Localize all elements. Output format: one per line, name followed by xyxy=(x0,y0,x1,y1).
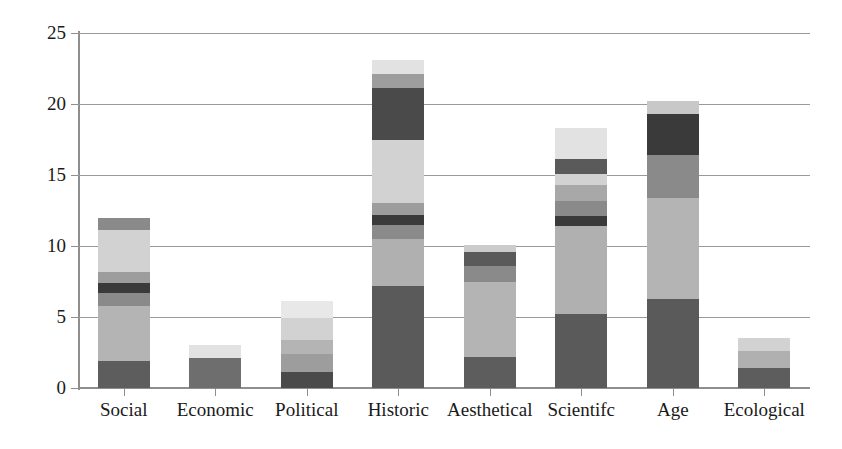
bar-segment xyxy=(647,101,699,114)
bar-segment xyxy=(372,140,424,204)
chart-root: 0510152025 SocialEconomicPoliticalHistor… xyxy=(0,0,842,449)
bar-segment xyxy=(555,128,607,159)
x-axis-tick xyxy=(764,389,765,396)
y-axis-tick xyxy=(71,175,78,176)
bar-segment xyxy=(98,283,150,293)
bar-segment xyxy=(647,155,699,198)
bar-segment xyxy=(281,372,333,388)
bar-segment xyxy=(464,266,516,282)
bar-segment xyxy=(464,252,516,266)
x-axis-label-historic: Historic xyxy=(353,400,445,421)
bar-segment xyxy=(738,338,790,351)
bar-segment xyxy=(372,203,424,214)
bar-segment xyxy=(555,185,607,201)
x-axis-label-social: Social xyxy=(78,400,170,421)
bar-segment xyxy=(555,226,607,314)
bar-segment xyxy=(98,230,150,271)
bar-segment xyxy=(464,245,516,252)
bar-segment xyxy=(372,225,424,239)
gridline xyxy=(78,175,810,176)
y-axis-tick xyxy=(71,104,78,105)
bar-segment xyxy=(555,201,607,217)
y-axis-tick xyxy=(71,33,78,34)
bar-segment xyxy=(555,314,607,388)
bar-segment xyxy=(372,60,424,74)
bar-age xyxy=(647,101,699,388)
bar-scientifc xyxy=(555,128,607,388)
bar-segment xyxy=(738,351,790,368)
x-axis-tick xyxy=(307,389,308,396)
bar-segment xyxy=(98,218,150,231)
y-axis-tick xyxy=(71,317,78,318)
bar-political xyxy=(281,301,333,388)
bar-segment xyxy=(281,354,333,372)
bar-social xyxy=(98,218,150,388)
y-axis-label: 5 xyxy=(10,307,66,326)
x-axis-tick xyxy=(398,389,399,396)
bar-aesthetical xyxy=(464,245,516,388)
bar-segment xyxy=(189,358,241,388)
y-axis-label: 0 xyxy=(10,378,66,397)
bar-segment xyxy=(281,301,333,318)
bar-segment xyxy=(372,239,424,286)
y-axis-label: 10 xyxy=(10,236,66,255)
gridline xyxy=(78,246,810,247)
bar-segment xyxy=(647,114,699,155)
x-axis-tick xyxy=(215,389,216,396)
x-axis-tick xyxy=(490,389,491,396)
bar-segment xyxy=(372,286,424,388)
bar-segment xyxy=(281,318,333,339)
x-axis-label-aesthetical: Aesthetical xyxy=(444,400,536,421)
bar-segment xyxy=(372,88,424,139)
plot-area xyxy=(78,33,810,388)
gridline xyxy=(78,33,810,34)
bar-segment xyxy=(647,299,699,388)
x-axis-label-economic: Economic xyxy=(170,400,262,421)
bar-segment xyxy=(555,216,607,226)
bar-segment xyxy=(98,293,150,306)
y-axis-label: 15 xyxy=(10,165,66,184)
gridline xyxy=(78,104,810,105)
bar-segment xyxy=(464,357,516,388)
bar-segment xyxy=(98,361,150,388)
x-axis-tick xyxy=(581,389,582,396)
x-axis-label-scientifc: Scientifc xyxy=(536,400,628,421)
bar-segment xyxy=(647,198,699,299)
bar-segment xyxy=(738,368,790,388)
bar-segment xyxy=(464,282,516,357)
y-axis-label: 20 xyxy=(10,94,66,113)
y-axis-label: 25 xyxy=(10,23,66,42)
bar-segment xyxy=(281,340,333,354)
gridline xyxy=(78,317,810,318)
x-axis-label-political: Political xyxy=(261,400,353,421)
bar-segment xyxy=(189,345,241,358)
bar-segment xyxy=(98,306,150,361)
x-axis-tick xyxy=(124,389,125,396)
bar-segment xyxy=(555,159,607,173)
x-axis-label-age: Age xyxy=(627,400,719,421)
y-axis-tick xyxy=(71,388,78,389)
bar-ecological xyxy=(738,338,790,388)
y-axis-tick xyxy=(71,246,78,247)
bar-segment xyxy=(372,215,424,225)
bar-segment xyxy=(98,272,150,283)
bar-economic xyxy=(189,345,241,388)
bar-historic xyxy=(372,60,424,388)
bar-segment xyxy=(555,174,607,185)
x-axis-tick xyxy=(673,389,674,396)
bar-segment xyxy=(372,74,424,88)
x-axis-label-ecological: Ecological xyxy=(719,400,811,421)
